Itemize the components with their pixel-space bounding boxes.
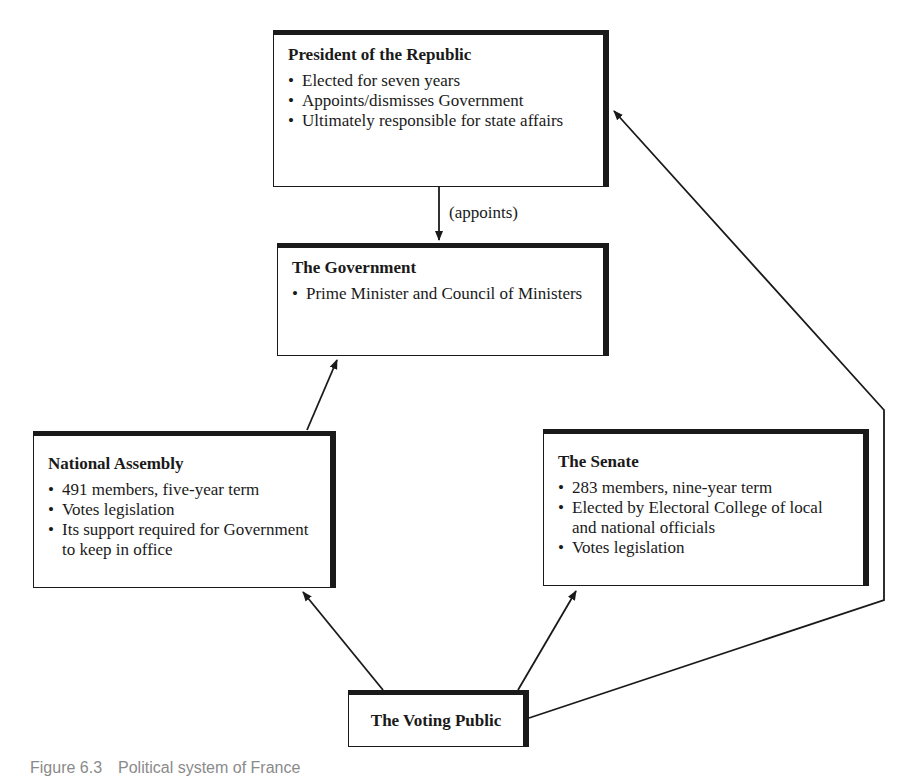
edge-assembly-government	[307, 360, 337, 430]
edge-public-assembly	[303, 592, 383, 690]
node-title: The Senate	[558, 452, 851, 472]
bullet-item: 283 members, nine-year term	[558, 478, 851, 498]
bullet-item: Elected for seven years	[288, 71, 591, 91]
node-bullets: Elected for seven years Appoints/dismiss…	[288, 71, 591, 131]
node-bullets: 491 members, five-year term Votes legisl…	[48, 480, 318, 560]
bullet-item: Elected by Electoral College of local an…	[558, 498, 851, 538]
node-title: The Government	[292, 258, 591, 278]
edge-label-appoints: (appoints)	[449, 203, 518, 223]
node-bullets: Prime Minister and Council of Ministers	[292, 284, 591, 304]
node-title: National Assembly	[48, 454, 318, 474]
figure-caption: Figure 6.3Political system of France	[30, 759, 300, 777]
node-title: The Voting Public	[371, 711, 501, 731]
bullet-item: Prime Minister and Council of Ministers	[292, 284, 591, 304]
node-government: The Government Prime Minister and Counci…	[277, 243, 609, 356]
bullet-item: Votes legislation	[558, 538, 851, 558]
bullet-item: Votes legislation	[48, 500, 318, 520]
edge-public-senate	[518, 591, 576, 690]
caption-number: Figure 6.3	[30, 759, 102, 776]
bullet-item: Its support required for Government to k…	[48, 520, 318, 560]
bullet-item: 491 members, five-year term	[48, 480, 318, 500]
bullet-item: Appoints/dismisses Government	[288, 91, 591, 111]
node-national-assembly: National Assembly 491 members, five-year…	[33, 431, 336, 588]
node-president: President of the Republic Elected for se…	[273, 30, 609, 187]
caption-text: Political system of France	[118, 759, 300, 776]
node-senate: The Senate 283 members, nine-year term E…	[543, 429, 869, 586]
edge-public-president	[529, 111, 884, 718]
node-title: President of the Republic	[288, 45, 591, 65]
node-voting-public: The Voting Public	[348, 690, 529, 747]
bullet-item: Ultimately responsible for state affairs	[288, 111, 591, 131]
node-bullets: 283 members, nine-year term Elected by E…	[558, 478, 851, 558]
